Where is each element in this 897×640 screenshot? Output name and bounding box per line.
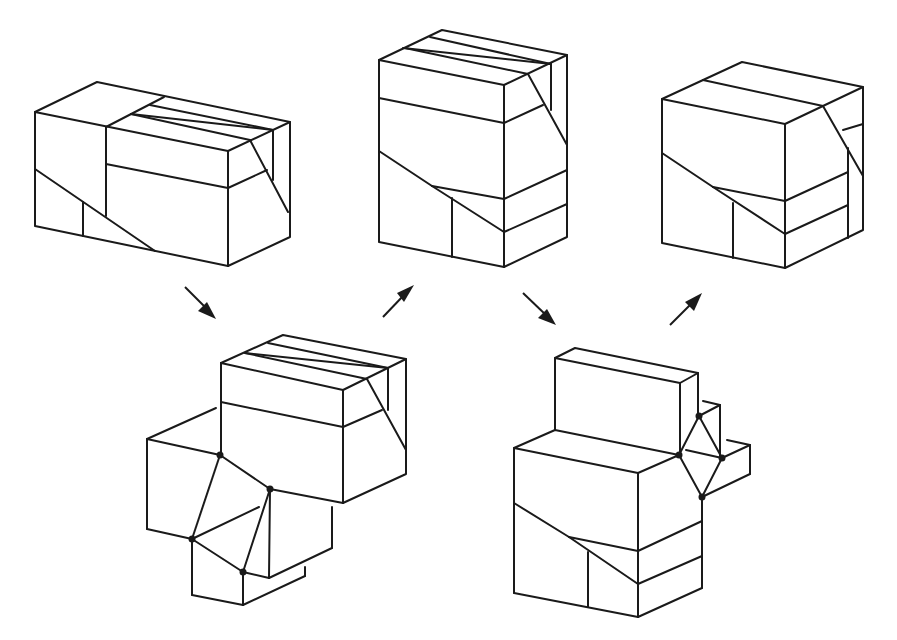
dissection-diagram bbox=[0, 0, 897, 640]
box-3 bbox=[662, 62, 863, 268]
hinge-point bbox=[217, 452, 224, 459]
arrow-icon bbox=[523, 293, 556, 325]
arrow-icon bbox=[383, 285, 414, 317]
box-2 bbox=[379, 30, 567, 267]
arrow-icon bbox=[185, 287, 216, 319]
hinge-point bbox=[699, 494, 706, 501]
hinge-point bbox=[240, 569, 247, 576]
hinge-point bbox=[267, 486, 274, 493]
arrow-icon bbox=[670, 293, 702, 325]
hinge-point bbox=[696, 413, 703, 420]
hinge-point bbox=[676, 452, 683, 459]
transition-2 bbox=[514, 348, 750, 617]
transition-1 bbox=[147, 335, 406, 605]
box-1 bbox=[35, 82, 290, 266]
hinge-point bbox=[189, 536, 196, 543]
hinge-point bbox=[719, 455, 726, 462]
